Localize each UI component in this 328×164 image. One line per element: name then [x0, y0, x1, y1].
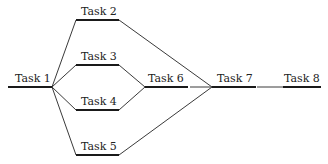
task-8: Task 8 — [283, 72, 321, 87]
task-1: Task 1 — [8, 72, 52, 87]
task-3-label: Task 3 — [81, 50, 117, 63]
task-network-diagram: Task 1 Task 2 Task 3 Task 4 Task 5 Task … — [0, 0, 328, 164]
task-7-label: Task 7 — [217, 72, 253, 85]
task-5-label: Task 5 — [81, 140, 117, 153]
edge-task1-task5 — [52, 87, 76, 155]
edge-task4-task6 — [119, 87, 145, 110]
task-7: Task 7 — [212, 72, 256, 87]
task-6: Task 6 — [145, 72, 188, 87]
edge-task1-task2 — [52, 20, 76, 87]
task-1-label: Task 1 — [15, 72, 51, 85]
task-2: Task 2 — [76, 5, 119, 20]
task-2-label: Task 2 — [81, 5, 117, 18]
task-4-label: Task 4 — [81, 95, 117, 108]
task-8-label: Task 8 — [284, 72, 320, 85]
task-5: Task 5 — [76, 140, 119, 155]
task-3: Task 3 — [76, 50, 119, 65]
task-4: Task 4 — [76, 95, 119, 110]
task-6-label: Task 6 — [148, 72, 184, 85]
edge-task3-task6 — [119, 65, 145, 87]
